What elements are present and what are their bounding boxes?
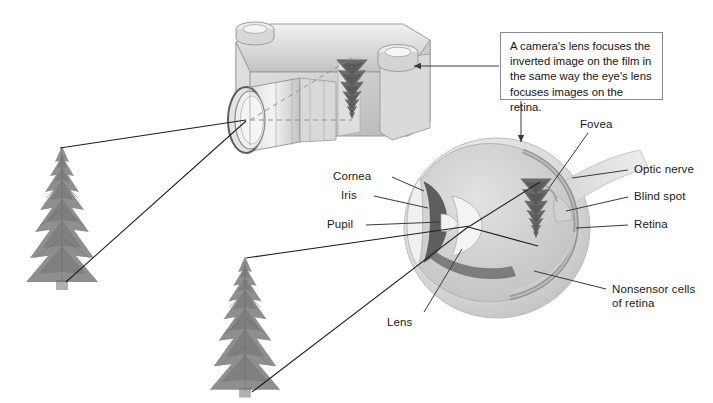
caption-box: A camera's lens focuses the inverted ima… (500, 32, 663, 100)
tree-object-left (26, 146, 98, 290)
tree-object-bottom (210, 256, 281, 397)
label-retina: Retina (634, 218, 668, 232)
camera-illustration (228, 22, 430, 153)
label-nonsensor-cells-line2: of retina (612, 297, 654, 311)
label-nonsensor-cells-line1: Nonsensor cells (612, 283, 695, 297)
label-lens: Lens (387, 316, 412, 330)
caption-line-4: focuses images on the retina. (510, 85, 654, 115)
label-cornea: Cornea (333, 170, 371, 184)
label-iris: Iris (341, 189, 357, 203)
label-optic-nerve: Optic nerve (634, 163, 694, 177)
label-fovea: Fovea (580, 118, 612, 132)
label-blind-spot: Blind spot (634, 190, 686, 204)
caption-line-1: A camera's lens focuses the (510, 39, 654, 54)
caption-line-3: the same way the eye's lens (510, 69, 654, 84)
caption-line-2: inverted image on the film in (510, 54, 654, 69)
label-pupil: Pupil (327, 218, 353, 232)
figure-canvas: A camera's lens focuses the inverted ima… (0, 0, 713, 403)
